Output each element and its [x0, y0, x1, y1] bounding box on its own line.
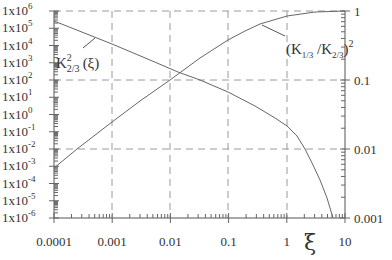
- right-tick-label: 1: [354, 4, 361, 19]
- x-tick-label: 0.0001: [36, 234, 72, 249]
- right-tick-label: 0.1: [354, 73, 370, 88]
- left-tick-label: 1x10-2: [2, 139, 36, 156]
- x-tick-label: 0.1: [220, 234, 236, 249]
- left-tick-label: 1x10-5: [2, 191, 36, 208]
- left-tick-label: 1x101: [2, 87, 33, 104]
- left-tick-label: 1x104: [2, 36, 33, 53]
- x-axis-title: ξ: [304, 230, 316, 255]
- left-tick-label: 1x106: [2, 1, 33, 18]
- left-tick-label: 1x100: [2, 105, 33, 122]
- left-tick-label: 1x10-6: [2, 208, 36, 225]
- x-tick-label: 10: [339, 234, 352, 249]
- x-tick-label: 0.01: [159, 234, 182, 249]
- left-tick-label: 1x102: [2, 70, 33, 87]
- left-tick-label: 1x10-4: [2, 174, 36, 191]
- right-axis-labels: 10.10.010.001: [354, 4, 383, 226]
- curve-label-k23: K22/3(ξ): [56, 52, 99, 74]
- right-tick-label: 0.01: [354, 142, 377, 157]
- left-tick-label: 1x10-1: [2, 122, 36, 139]
- curve-label-ratio: (K1/3 /K2/3)2: [286, 38, 354, 60]
- x-tick-label: 1: [284, 234, 291, 249]
- left-tick-label: 1x105: [2, 18, 33, 35]
- curve-k13-k23-ratio-squared: [54, 11, 345, 168]
- left-axis-labels: 1x1061x1051x1041x1031x1021x1011x1001x10-…: [2, 1, 36, 225]
- left-tick-label: 1x103: [2, 53, 33, 70]
- x-tick-label: 0.001: [98, 234, 127, 249]
- right-tick-label: 0.001: [354, 211, 383, 226]
- chart: K22/3(ξ) (K1/3 /K2/3)2 1x1061x1051x1041x…: [0, 0, 392, 260]
- leader-line-k23: [83, 38, 95, 48]
- left-tick-label: 1x10-3: [2, 156, 36, 173]
- leader-line-ratio: [262, 25, 285, 36]
